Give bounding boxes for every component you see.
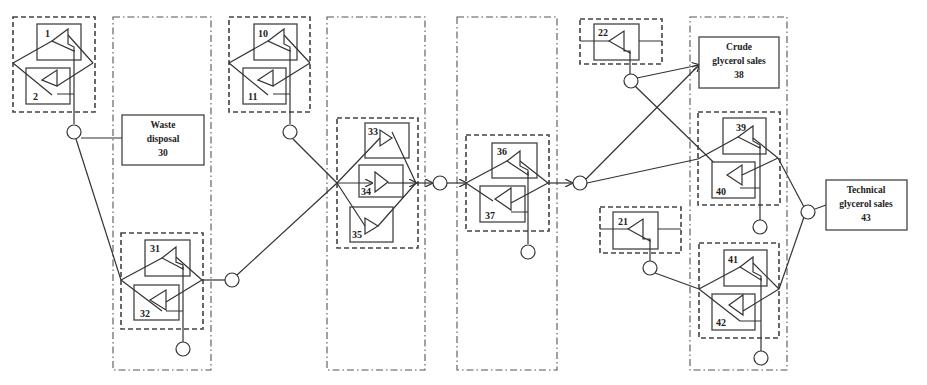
unit-group-22: 22 xyxy=(580,19,662,88)
svg-text:34: 34 xyxy=(361,186,371,197)
junction-node xyxy=(225,273,239,287)
sink-waste-disposal: Waste disposal 30 xyxy=(122,115,204,165)
svg-text:Crude: Crude xyxy=(726,42,752,52)
svg-text:40: 40 xyxy=(716,186,726,197)
svg-text:39: 39 xyxy=(736,122,746,133)
unit-group-39-40: 39 40 xyxy=(698,112,780,234)
unit-group-1-2: 1 2 xyxy=(13,17,95,139)
unit-group-41-42: 41 42 xyxy=(699,243,779,365)
sink-crude-glycerol-sales: Crude glycerol sales 38 xyxy=(699,37,779,88)
sink-technical-glycerol-sales: Technical glycerol sales 43 xyxy=(826,180,907,230)
junction-node xyxy=(573,176,587,190)
svg-text:42: 42 xyxy=(716,317,726,328)
unit-group-21: 21 xyxy=(600,207,681,275)
svg-text:38: 38 xyxy=(734,70,744,80)
unit-group-31-32: 31 32 xyxy=(121,233,239,356)
unit-group-36-37: 36 37 xyxy=(466,135,549,259)
svg-text:22: 22 xyxy=(598,27,608,38)
output-node xyxy=(753,220,767,234)
svg-text:33: 33 xyxy=(368,126,378,137)
junction-node xyxy=(624,74,638,88)
svg-text:10: 10 xyxy=(258,28,268,39)
svg-text:Technical: Technical xyxy=(847,185,886,195)
svg-text:glycerol sales: glycerol sales xyxy=(712,56,766,66)
output-node xyxy=(176,342,190,356)
junction-node xyxy=(283,125,297,139)
junction-node xyxy=(433,176,447,190)
junction-node xyxy=(801,205,815,219)
svg-text:31: 31 xyxy=(150,243,160,254)
svg-text:21: 21 xyxy=(618,216,628,227)
svg-text:disposal: disposal xyxy=(147,134,180,144)
svg-text:glycerol sales: glycerol sales xyxy=(839,199,893,209)
svg-text:35: 35 xyxy=(352,229,362,240)
junction-node xyxy=(67,125,81,139)
output-node xyxy=(754,351,768,365)
svg-text:Waste: Waste xyxy=(151,120,176,130)
process-flow-diagram: 1 2 Waste disposal 30 31 32 10 xyxy=(0,0,927,385)
svg-text:36: 36 xyxy=(497,146,507,157)
svg-text:41: 41 xyxy=(728,254,738,265)
unit-label: 1 xyxy=(45,28,50,39)
junction-node xyxy=(643,261,657,275)
svg-text:32: 32 xyxy=(140,308,150,319)
unit-group-10-11: 10 11 xyxy=(229,17,310,139)
output-node xyxy=(521,245,535,259)
svg-text:43: 43 xyxy=(861,213,871,223)
unit-label: 2 xyxy=(33,91,38,102)
svg-text:37: 37 xyxy=(485,210,495,221)
svg-text:30: 30 xyxy=(158,148,168,158)
unit-group-33-34-35: 33 34 35 xyxy=(337,118,418,248)
svg-text:11: 11 xyxy=(248,91,257,102)
